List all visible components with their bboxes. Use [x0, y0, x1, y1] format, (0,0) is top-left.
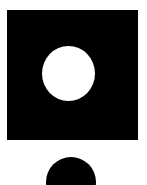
graphic-alt-text [0, 0, 1, 1]
white-circle-shape [42, 46, 95, 101]
black-circle-shape [46, 157, 96, 185]
graphic-canvas [0, 0, 147, 185]
